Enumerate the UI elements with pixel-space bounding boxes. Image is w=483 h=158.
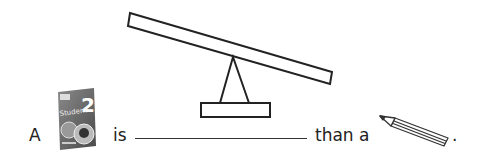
seesaw-plank — [128, 13, 332, 84]
verb-is: is — [113, 125, 127, 145]
seesaw-base — [201, 103, 270, 117]
pencil-icon — [378, 112, 454, 150]
end-period: . — [452, 125, 457, 145]
article-a: A — [29, 125, 41, 145]
answer-blank[interactable] — [135, 128, 307, 139]
book-image: 2 Student — [54, 88, 98, 152]
comparison-text: than a — [315, 125, 369, 145]
book-cover-icon: 2 Student — [54, 88, 98, 152]
seesaw-fulcrum — [220, 57, 249, 103]
